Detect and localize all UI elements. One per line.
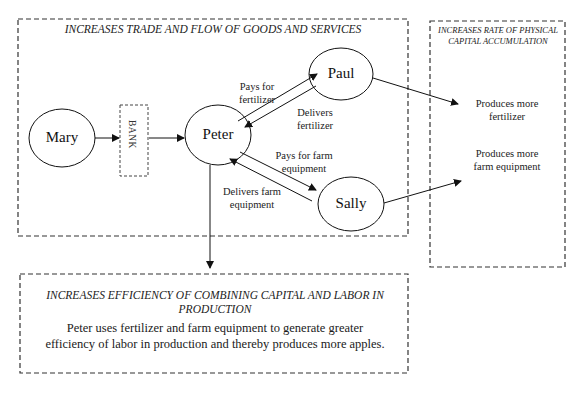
pays-equipment-line2: equipment — [264, 162, 344, 175]
outcome-equipment: Produces more farm equipment — [462, 147, 552, 173]
capital-box-title-line1: INCREASES RATE OF PHYSICAL — [432, 25, 564, 36]
outcome-equipment-line2: farm equipment — [462, 160, 552, 173]
peter-label: Peter — [185, 126, 251, 143]
capital-box-title: INCREASES RATE OF PHYSICAL CAPITAL ACCUM… — [432, 25, 564, 47]
delivers-fertilizer-line2: fertilizer — [280, 119, 350, 132]
efficiency-body-line1: Peter uses fertilizer and farm equipment… — [22, 320, 408, 336]
delivers-fertilizer-label: Delivers fertilizer — [280, 106, 350, 132]
pays-fertilizer-line1: Pays for — [222, 80, 292, 93]
efficiency-box-title-line2: PRODUCTION — [22, 302, 408, 316]
efficiency-box-title: INCREASES EFFICIENCY OF COMBINING CAPITA… — [22, 288, 408, 316]
efficiency-box-title-line1: INCREASES EFFICIENCY OF COMBINING CAPITA… — [22, 288, 408, 302]
mary-label: Mary — [29, 129, 95, 146]
outcome-fertilizer-line2: fertilizer — [462, 110, 552, 123]
outcome-equipment-line1: Produces more — [462, 147, 552, 160]
outcome-fertilizer: Produces more fertilizer — [462, 97, 552, 123]
arrow-paul-fertilizer — [373, 78, 458, 104]
delivers-equipment-line1: Delivers farm — [212, 185, 292, 198]
capital-box — [430, 21, 565, 267]
sally-label: Sally — [318, 195, 384, 212]
pays-equipment-line1: Pays for farm — [264, 149, 344, 162]
delivers-fertilizer-line1: Delivers — [280, 106, 350, 119]
efficiency-box-body: Peter uses fertilizer and farm equipment… — [22, 320, 408, 352]
trade-box-title: INCREASES TRADE AND FLOW OF GOODS AND SE… — [18, 23, 408, 35]
capital-box-title-line2: CAPITAL ACCUMULATION — [432, 36, 564, 47]
arrow-sally-equipment — [384, 181, 461, 203]
pays-equipment-label: Pays for farm equipment — [264, 149, 344, 175]
pays-fertilizer-line2: fertilizer — [222, 93, 292, 106]
pays-fertilizer-label: Pays for fertilizer — [222, 80, 292, 106]
efficiency-body-line2: efficiency of labor in production and th… — [22, 336, 408, 352]
outcome-fertilizer-line1: Produces more — [462, 97, 552, 110]
paul-label: Paul — [309, 65, 373, 82]
delivers-equipment-line2: equipment — [212, 198, 292, 211]
delivers-equipment-label: Delivers farm equipment — [212, 185, 292, 211]
bank-label: BANK — [127, 120, 137, 149]
